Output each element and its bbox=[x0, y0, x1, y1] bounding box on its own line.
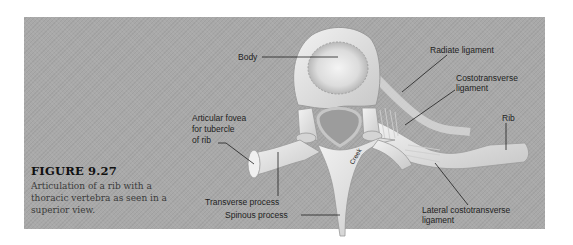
label-articular-fovea-1: Articular fovea bbox=[192, 113, 246, 123]
vertebral-body-shape bbox=[294, 27, 380, 108]
label-articular-fovea-3: of rib bbox=[192, 135, 211, 145]
label-lateral-costotransverse-1: Lateral costotransverse bbox=[422, 205, 510, 215]
label-costotransverse-ligament-1: Costotransverse bbox=[456, 73, 518, 83]
process-shapes bbox=[248, 138, 412, 236]
label-transverse-process: Transverse process bbox=[205, 197, 279, 207]
figure-number: FIGURE 9.27 bbox=[31, 164, 117, 178]
label-spinous-process: Spinous process bbox=[225, 210, 288, 220]
label-lateral-costotransverse-2: ligament bbox=[422, 215, 454, 225]
vertebral-foramen-shape bbox=[318, 108, 360, 146]
figure-caption: Articulation of a rib with a thoracic ve… bbox=[31, 180, 181, 216]
label-costotransverse-ligament-2: ligament bbox=[456, 83, 488, 93]
label-radiate-ligament: Radiate ligament bbox=[430, 45, 494, 55]
label-body: Body bbox=[238, 52, 257, 62]
label-rib: Rib bbox=[502, 113, 515, 123]
label-articular-fovea-2: for tubercle bbox=[192, 124, 235, 134]
